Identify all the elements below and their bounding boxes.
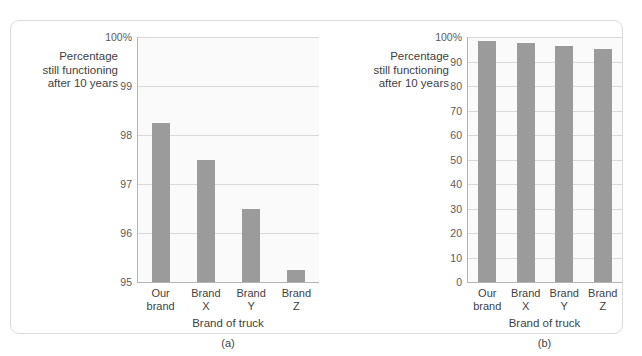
y-tick-label: 98 [120, 129, 132, 141]
gridline [138, 86, 319, 87]
x-tick-label-line: Brand [550, 287, 579, 300]
x-tick-label: BrandX [511, 287, 540, 313]
figure-card: Percentage still functioning after 10 ye… [10, 20, 623, 334]
y-axis-title-line: Percentage [339, 50, 449, 64]
x-tick-label-line: Y [236, 300, 265, 313]
x-tick-label: BrandZ [282, 287, 311, 313]
x-tick-label-line: Brand [588, 287, 617, 300]
x-tick-label-line: Brand [191, 287, 220, 300]
y-tick-label: 100% [435, 31, 462, 43]
y-axis-title-b: Percentage still functioning after 10 ye… [339, 50, 449, 91]
y-tick-label: 80 [450, 80, 462, 92]
bar [478, 41, 496, 282]
x-tick-label-line: Brand [511, 287, 540, 300]
y-tick-label: 99 [120, 80, 132, 92]
panel-caption-b: (b) [467, 337, 622, 349]
y-axis-title-a: Percentage still functioning after 10 ye… [8, 50, 118, 91]
plot-area-a: 9596979899100%OurbrandBrandXBrandYBrandZ [137, 37, 319, 283]
x-tick-label-line: Our [147, 287, 175, 300]
y-tick-label: 0 [456, 276, 462, 288]
y-tick-label: 95 [120, 276, 132, 288]
y-tick-label: 97 [120, 178, 132, 190]
x-tick-label-line: Brand [282, 287, 311, 300]
x-tick-label: BrandZ [588, 287, 617, 313]
y-axis-title-line: after 10 years [339, 77, 449, 91]
y-axis-title-line: after 10 years [8, 77, 118, 91]
bar [287, 270, 305, 282]
x-tick-label: Ourbrand [147, 287, 175, 313]
x-axis-title-b: Brand of truck [467, 317, 622, 329]
y-tick-label: 20 [450, 227, 462, 239]
x-tick-label: Ourbrand [473, 287, 501, 313]
bar [197, 160, 215, 283]
y-tick-label: 10 [450, 252, 462, 264]
bar [242, 209, 260, 283]
chart-panel-a: Percentage still functioning after 10 ye… [11, 21, 321, 335]
x-tick-label-line: Y [550, 300, 579, 313]
y-axis-title-line: still functioning [339, 64, 449, 78]
bar [594, 49, 612, 282]
gridline [138, 37, 319, 38]
plot-area-b: 0102030405060708090100%OurbrandBrandXBra… [467, 37, 622, 283]
y-tick-label: 100% [105, 31, 132, 43]
gridline [468, 37, 622, 38]
y-tick-label: 90 [450, 56, 462, 68]
x-tick-label: BrandX [191, 287, 220, 313]
x-tick-label-line: brand [473, 300, 501, 313]
x-tick-label: BrandY [550, 287, 579, 313]
x-tick-label: BrandY [236, 287, 265, 313]
x-tick-label-line: X [191, 300, 220, 313]
bar [152, 123, 170, 282]
x-tick-label-line: brand [147, 300, 175, 313]
bar [555, 46, 573, 282]
panel-caption-a: (a) [137, 337, 319, 349]
y-tick-label: 30 [450, 203, 462, 215]
y-axis-title-line: Percentage [8, 50, 118, 64]
chart-panel-b: Percentage still functioning after 10 ye… [321, 21, 624, 335]
x-tick-label-line: Our [473, 287, 501, 300]
y-axis-title-line: still functioning [8, 64, 118, 78]
x-tick-label-line: Z [588, 300, 617, 313]
y-tick-label: 96 [120, 227, 132, 239]
x-tick-label-line: Z [282, 300, 311, 313]
bar [517, 43, 535, 282]
y-tick-label: 70 [450, 105, 462, 117]
x-tick-label-line: X [511, 300, 540, 313]
y-tick-label: 60 [450, 129, 462, 141]
y-tick-label: 40 [450, 178, 462, 190]
y-tick-label: 50 [450, 154, 462, 166]
x-axis-title-a: Brand of truck [137, 317, 319, 329]
x-tick-label-line: Brand [236, 287, 265, 300]
